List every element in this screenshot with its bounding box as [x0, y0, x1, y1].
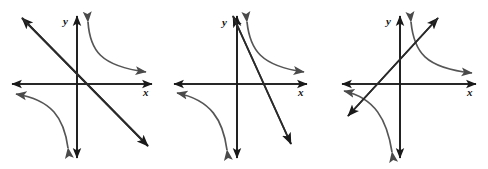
x-axis-label: x	[142, 86, 149, 98]
hyperbola-branch-lower-left	[177, 93, 227, 150]
straight-line-lower-arrow	[233, 16, 291, 144]
graph-panel-3: y x	[326, 0, 488, 169]
x-axis-label: x	[297, 86, 304, 98]
hyperbola-branch-lower-left	[344, 91, 392, 152]
y-axis-label: y	[61, 15, 68, 27]
graph-panel-2: y x	[163, 0, 326, 169]
hyperbola-branch-upper-right	[88, 22, 146, 72]
figure-root: y x y x	[0, 0, 488, 169]
hyperbola-branch-lower-left	[16, 94, 68, 148]
straight-line-lower-arrow	[348, 18, 438, 116]
straight-line-lower-arrow	[22, 18, 148, 146]
x-axis-label: x	[466, 86, 473, 98]
hyperbola-branch-upper-right	[411, 22, 472, 73]
graph-panel-1: y x	[0, 0, 163, 169]
y-axis-label: y	[220, 16, 227, 28]
y-axis-label: y	[384, 15, 391, 27]
